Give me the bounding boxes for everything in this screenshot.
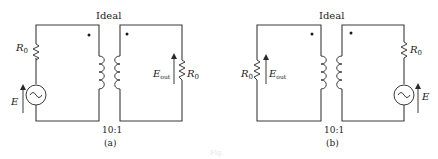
secondary-loop-a: Eout R0 <box>115 25 199 121</box>
diagram-a: Ideal E R0 Eout <box>10 10 199 148</box>
secondary-coil-icon <box>337 56 342 89</box>
secondary-loop-b: E R0 <box>337 25 430 121</box>
primary-coil-icon <box>99 56 104 89</box>
resistor-icon <box>33 44 39 60</box>
resistor-label-a-primary: R0 <box>15 42 28 55</box>
output-label-a: Eout <box>152 68 171 80</box>
polarity-dot <box>350 32 353 35</box>
ideal-label-b: Ideal <box>319 10 344 21</box>
primary-loop-b: R0 Eout <box>240 25 326 121</box>
resistor-label-b-secondary: R0 <box>409 44 422 57</box>
resistor-icon <box>254 60 260 80</box>
polarity-dot <box>311 33 314 36</box>
polarity-dot <box>126 33 129 36</box>
ideal-label-a: Ideal <box>96 10 121 21</box>
resistor-icon <box>179 60 185 80</box>
primary-loop-a: E R0 <box>10 25 104 121</box>
resistor-label-b-primary: R0 <box>240 68 253 81</box>
diagram-b: Ideal R0 Eout E R0 10:1 (b) <box>240 10 430 148</box>
ratio-label-a: 10:1 <box>102 125 122 135</box>
primary-coil-icon <box>321 56 326 89</box>
secondary-coil-icon <box>115 56 120 89</box>
circuit-figure: Ideal E R0 Eout <box>0 0 438 159</box>
ratio-label-b: 10:1 <box>324 125 344 135</box>
subfigure-label-b: (b) <box>326 138 339 148</box>
output-label-b: Eout <box>268 68 287 80</box>
subfigure-label-a: (a) <box>104 138 116 148</box>
resistor-label-a-secondary: R0 <box>186 68 199 81</box>
source-label-b: E <box>421 91 430 102</box>
figure-caption: Fig. <box>210 149 224 157</box>
source-label-a: E <box>10 96 19 107</box>
resistor-icon <box>401 42 407 58</box>
polarity-dot <box>88 34 91 37</box>
